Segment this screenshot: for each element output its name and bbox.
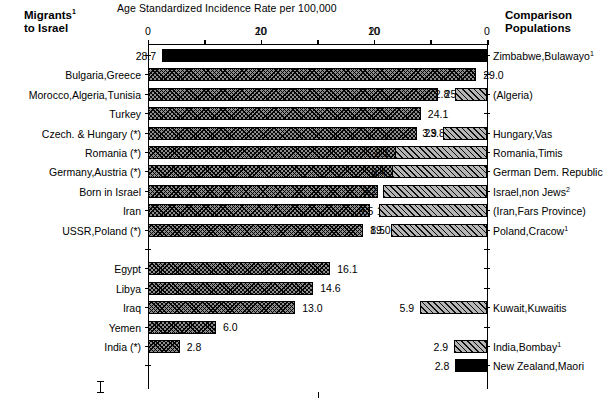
row-label-right: Israel,non Jews2 (493, 186, 570, 198)
right-axis-tick-25 (204, 40, 205, 45)
table-row: Iran19.69.5(Iran,Fars Province) (0, 202, 603, 221)
row-label-left: Iran (123, 205, 141, 217)
table-row: 2.8New Zealand,Maori (0, 357, 603, 376)
left-header-superscript: 1 (72, 8, 76, 15)
row-label-left: Yemen (109, 322, 141, 334)
bar-value-right: 2.9 (418, 341, 448, 353)
bar-left (148, 301, 295, 314)
bar-value-right: 2.8 (419, 88, 449, 100)
bar-value-left: 2.8 (187, 341, 202, 353)
bar-value-right: 8.5 (355, 224, 385, 236)
bar-right (391, 224, 487, 237)
right-header-line2: Populations (505, 22, 571, 34)
bar-value-right: 9.5 (343, 205, 373, 217)
right-axis-tick-10 (374, 40, 375, 45)
row-label-right: (Algeria) (493, 89, 533, 101)
row-label-right: Kuwait,Kuwaitis (493, 302, 567, 314)
table-row: Germany,Austria (*)22.98.4German Dem. Re… (0, 163, 603, 182)
left-header-line1: Migrants (24, 9, 72, 21)
bar-right (420, 301, 487, 314)
bar-value-left: 6.0 (223, 321, 238, 333)
chart-title: Age Standardized Incidence Rate per 100,… (117, 2, 337, 14)
right-axis-tick-20 (261, 40, 262, 45)
table-row: Egypt16.1 (0, 260, 603, 279)
left-axis-header: Migrants1 to Israel (24, 9, 76, 34)
bar-value-left: 13.0 (302, 302, 322, 314)
row-label-right: Romania,Timis (493, 147, 563, 159)
right-axis-tick-label-20: 20 (248, 25, 274, 37)
right-axis-header: Comparison Populations (505, 9, 572, 34)
right-header-line1: Comparison (505, 9, 572, 21)
table-row: Turkey24.1 (0, 105, 603, 124)
table-row: Morocco,Algeria,Tunisia25.62.8(Algeria) (0, 86, 603, 105)
table-row: Yemen6.0 (0, 319, 603, 338)
bar-left (148, 340, 180, 353)
row-label-right-superscript: 1 (557, 341, 561, 348)
table-row: 28.7Zimbabwe,Bulawayo1 (0, 47, 603, 66)
right-axis-line (204, 44, 487, 45)
bar-right (443, 127, 487, 140)
bar-value-right: 5.9 (384, 302, 414, 314)
bar-left (148, 127, 417, 140)
row-label-left: Egypt (114, 263, 141, 275)
bottom-axis-tick (318, 392, 319, 398)
row-label-right: German Dem. Republic (493, 166, 603, 178)
row-label-left: USSR,Poland (*) (62, 225, 141, 237)
bar-right (455, 88, 487, 101)
row-label-right-superscript: 1 (564, 224, 568, 231)
bar-value-left: 14.6 (320, 282, 340, 294)
row-label-left: Libya (116, 283, 141, 295)
left-axis-tick-label-0: 0 (135, 25, 161, 37)
row-label-right-superscript: 2 (566, 185, 570, 192)
bar-value-left: 24.1 (428, 108, 448, 120)
bar-value-right: 2.8 (419, 360, 449, 372)
table-row: Czech. & Hungary (*)23.83.9Hungary,Vas (0, 125, 603, 144)
row-label-right: New Zealand,Maori (493, 360, 584, 372)
bar-value-right: 8.4 (356, 166, 386, 178)
right-axis-tick-label-10: 10 (361, 25, 387, 37)
bar-left (148, 321, 216, 334)
row-label-right: India,Bombay1 (493, 341, 561, 353)
bar-value-right: 9.2 (347, 185, 377, 197)
bar-right (379, 204, 487, 217)
table-row: Bulgaria,Greece29.0 (0, 66, 603, 85)
table-row: India (*)2.82.9India,Bombay1 (0, 338, 603, 357)
row-label-right: (Iran,Fars Province) (493, 205, 586, 217)
left-header-line2: to Israel (24, 22, 68, 34)
row-label-left: Bulgaria,Greece (65, 69, 141, 81)
row-label-left: Iraq (123, 302, 141, 314)
right-axis-tick-5 (430, 40, 431, 45)
bar-right (455, 359, 487, 372)
bar-value-right: 3.9 (407, 127, 437, 139)
row-label-right: Zimbabwe,Bulawayo1 (493, 50, 594, 62)
bar-right (392, 165, 487, 178)
bar-left (148, 88, 438, 101)
row-label-left: India (*) (104, 341, 141, 353)
bar-left (148, 107, 421, 120)
chart-canvas: Age Standardized Incidence Rate per 100,… (0, 0, 603, 402)
row-label-right: Hungary,Vas (493, 128, 552, 140)
row-label-left: Czech. & Hungary (*) (42, 128, 141, 140)
bar-right (383, 185, 487, 198)
table-row: Libya14.6 (0, 280, 603, 299)
right-axis-tick-15 (317, 40, 318, 45)
table-row: Born in Israel20.39.2Israel,non Jews2 (0, 183, 603, 202)
bar-right (454, 340, 487, 353)
bar-value-right: 8.1 (359, 147, 389, 159)
row-label-right-superscript: 1 (590, 50, 594, 57)
bar-left (148, 185, 378, 198)
row-label-right: Poland,Cracow1 (493, 225, 568, 237)
bar-right (395, 146, 487, 159)
row-label-left: Born in Israel (79, 186, 141, 198)
table-row: Romania (*)23.18.1Romania,Timis (0, 144, 603, 163)
bar-left (148, 68, 476, 81)
bar-value-right: 28.7 (126, 50, 156, 62)
scale-bracket-mark (100, 381, 101, 393)
bar-value-left: 29.0 (483, 69, 503, 81)
bar-right (162, 49, 487, 62)
right-axis-tick-label-0: 0 (474, 25, 500, 37)
bar-value-left: 16.1 (337, 263, 357, 275)
row-label-left: Romania (*) (85, 147, 141, 159)
row-label-left: Turkey (109, 108, 141, 120)
table-row: USSR,Poland (*)19.08.5Poland,Cracow1 (0, 222, 603, 241)
